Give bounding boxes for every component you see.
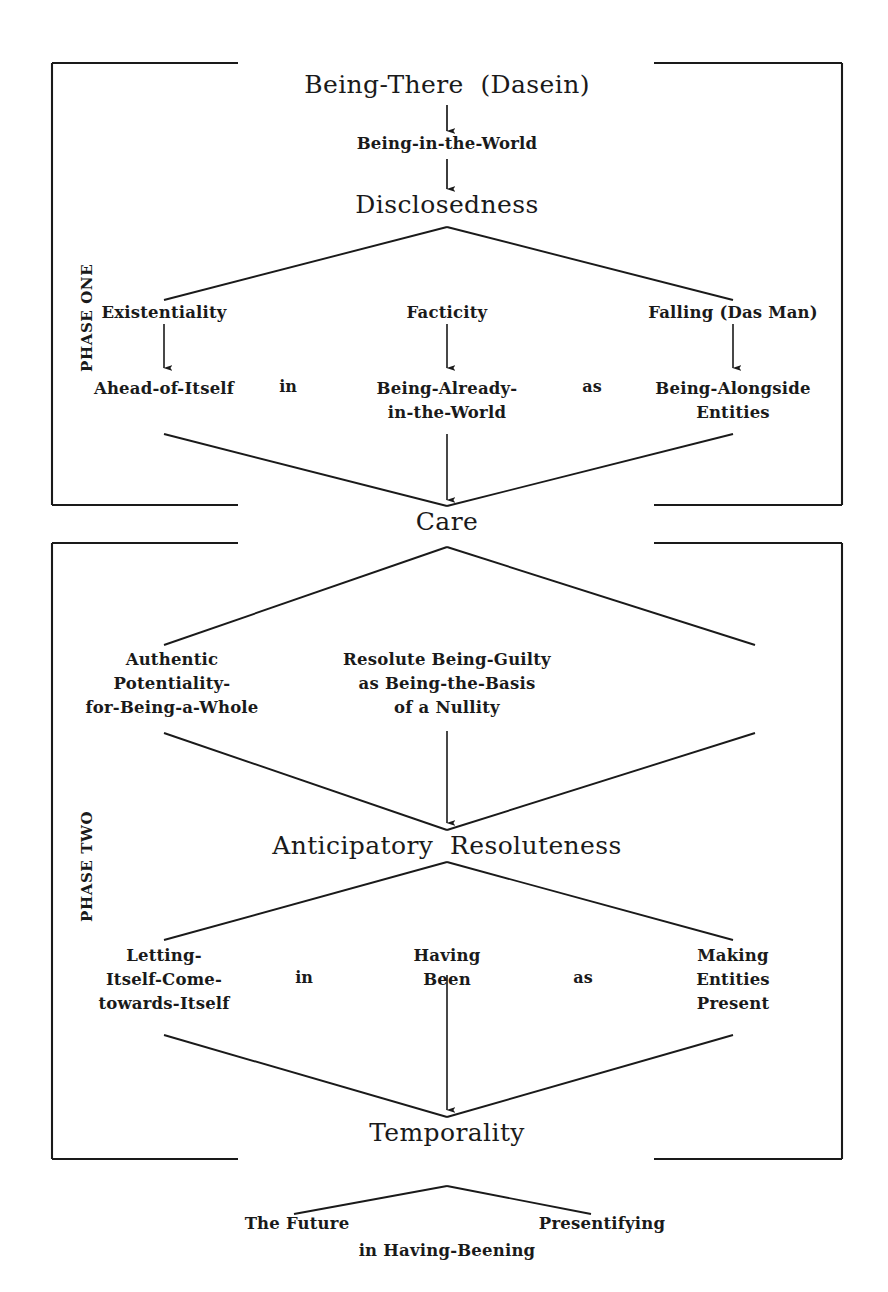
phase-two-label: PHASE TWO — [78, 811, 96, 922]
node-letting-line3: towards-Itself — [54, 992, 274, 1016]
node-falling-das-man: Falling (Das Man) — [613, 305, 853, 322]
node-making-line3: Present — [643, 992, 823, 1016]
node-authentic-line1: Authentic — [52, 648, 292, 672]
node-anticipatory-resoluteness: Anticipatory Resoluteness — [217, 833, 677, 858]
node-being-in-the-world: Being-in-the-World — [297, 136, 597, 153]
node-having-line2: Been — [377, 968, 517, 992]
node-being-alongside-line2: Entities — [613, 401, 853, 425]
fan-care-to-authentic — [164, 547, 755, 645]
node-facticity: Facticity — [347, 305, 547, 322]
node-being-alongside-line1: Being-Alongside — [613, 377, 853, 401]
node-being-already-line1: Being-Already- — [347, 377, 547, 401]
node-care: Care — [347, 509, 547, 534]
node-disclosedness: Disclosedness — [297, 192, 597, 217]
node-letting-line1: Letting- — [54, 944, 274, 968]
node-making-line1: Making — [643, 944, 823, 968]
fan-disclosedness-to-triad — [164, 227, 733, 300]
node-ahead-of-itself: Ahead-of-Itself — [44, 377, 284, 401]
fan-temporality-to-future-presentifying — [294, 1186, 591, 1214]
node-being-there-dasein: Being-There (Dasein) — [247, 72, 647, 97]
node-authentic-line2: Potentiality- — [52, 672, 292, 696]
node-resolute-line2: as Being-the-Basis — [317, 672, 577, 696]
node-temporality: Temporality — [307, 1120, 587, 1145]
fan-authentic-to-anticipatory — [164, 733, 755, 830]
node-existentiality: Existentiality — [44, 305, 284, 322]
fan-triad-to-care — [164, 434, 733, 506]
fan-ecstases-to-temporality — [164, 1035, 733, 1117]
node-the-future: The Future — [202, 1216, 392, 1233]
node-having-line1: Having — [377, 944, 517, 968]
node-in-having-beening: in Having-Beening — [297, 1243, 597, 1260]
node-letting-line2: Itself-Come- — [54, 968, 274, 992]
connector-in-phase-two: in — [274, 970, 334, 986]
connector-in-phase-one: in — [258, 379, 318, 395]
node-making-line2: Entities — [643, 968, 823, 992]
diagram-canvas: PHASE ONE PHASE TWO Being-There (Dasein)… — [0, 0, 888, 1292]
node-authentic-line3: for-Being-a-Whole — [52, 696, 292, 720]
node-presentifying: Presentifying — [502, 1216, 702, 1233]
node-resolute-line1: Resolute Being-Guilty — [317, 648, 577, 672]
node-resolute-line3: of a Nullity — [317, 696, 577, 720]
node-being-already-line2: in-the-World — [347, 401, 547, 425]
connector-as-phase-two: as — [553, 970, 613, 986]
fan-anticipatory-to-ecstases — [164, 862, 733, 940]
